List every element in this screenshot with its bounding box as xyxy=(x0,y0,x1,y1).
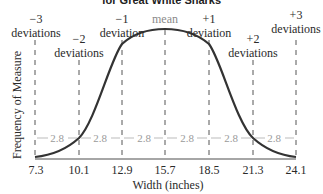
x-tick: 7.3 xyxy=(29,163,44,177)
deviation-label-plus2-text: deviations xyxy=(228,46,278,60)
deviation-label-plus3-text: deviations xyxy=(271,22,321,36)
x-axis-label: Width (inches) xyxy=(132,178,203,192)
interval-label: 2.8 xyxy=(180,132,194,144)
deviation-label-minus3-text: deviations xyxy=(11,26,61,40)
bell-curve-chart: 2.8 2.8 2.8 2.8 2.8 2.8 −3 deviations −2… xyxy=(0,0,323,194)
x-tick: 18.5 xyxy=(199,163,220,177)
x-tick: 10.1 xyxy=(69,163,90,177)
interval-label: 2.8 xyxy=(50,132,64,144)
deviation-label-plus2: +2 xyxy=(247,32,260,46)
interval-label: 2.8 xyxy=(137,132,151,144)
deviation-label-minus3: −3 xyxy=(30,12,43,26)
x-tick: 15.7 xyxy=(155,163,176,177)
deviation-label-minus2: −2 xyxy=(73,32,86,46)
x-tick: 12.9 xyxy=(112,163,133,177)
y-axis-label: Frequency of Measure xyxy=(10,51,24,159)
x-tick: 24.1 xyxy=(286,163,307,177)
deviation-label-plus3: +3 xyxy=(290,8,303,22)
interval-label: 2.8 xyxy=(224,132,238,144)
deviation-label-minus1: −1 xyxy=(116,12,129,26)
mean-label: mean xyxy=(152,12,178,26)
interval-label: 2.8 xyxy=(93,132,107,144)
deviation-label-minus1-text: deviation xyxy=(100,26,145,40)
interval-label: 2.8 xyxy=(267,132,281,144)
deviation-label-plus1-text: deviation xyxy=(187,26,232,40)
deviation-label-minus2-text: deviations xyxy=(54,46,104,60)
x-tick: 21.3 xyxy=(243,163,264,177)
deviation-label-plus1: +1 xyxy=(203,12,216,26)
